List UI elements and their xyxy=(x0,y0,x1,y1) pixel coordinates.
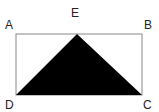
label-c: C xyxy=(143,98,152,112)
triangle-edc xyxy=(16,34,142,95)
geometry-diagram: A B E D C xyxy=(0,0,159,112)
label-d: D xyxy=(5,98,14,112)
label-a: A xyxy=(5,18,13,32)
label-b: B xyxy=(144,18,152,32)
label-e: E xyxy=(71,6,79,20)
